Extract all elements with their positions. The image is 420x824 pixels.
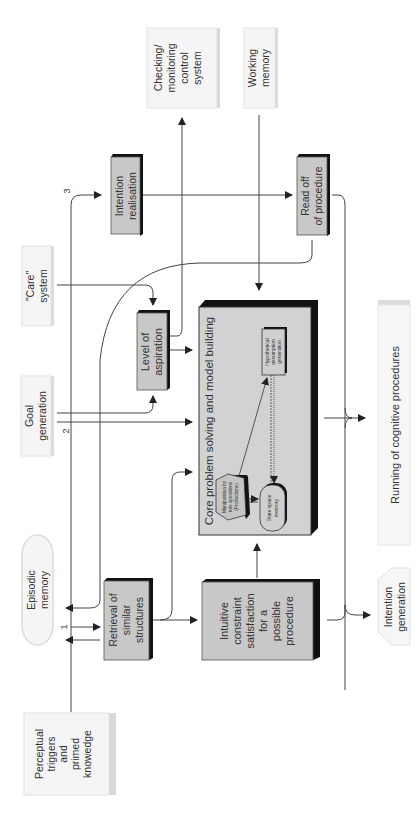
- svg-text:Goal: Goal: [23, 405, 35, 427]
- svg-text:"Care": "Care": [24, 271, 36, 301]
- path-number-2: 2: [61, 428, 71, 433]
- svg-text:2: 2: [61, 428, 71, 433]
- label-aspiration: Level of aspiration: [139, 328, 164, 376]
- svg-text:State space: State space: [266, 495, 272, 522]
- svg-text:system: system: [37, 269, 49, 303]
- svg-text:Intuitive: Intuitive: [218, 602, 230, 640]
- svg-text:knowedge: knowedge: [81, 730, 93, 778]
- svg-text:possible: possible: [270, 601, 282, 641]
- svg-text:generation: generation: [276, 340, 282, 364]
- svg-text:Episodic: Episodic: [25, 570, 37, 610]
- path-number-3: 3: [62, 188, 72, 193]
- svg-text:system: system: [191, 51, 203, 85]
- svg-text:constraint: constraint: [231, 597, 243, 645]
- svg-text:(Productions): (Productions): [234, 483, 239, 511]
- svg-text:aspiration: aspiration: [152, 328, 164, 376]
- svg-text:generation: generation: [36, 391, 48, 441]
- svg-text:1: 1: [59, 624, 69, 629]
- svg-text:3: 3: [62, 188, 72, 193]
- svg-text:and: and: [57, 745, 69, 763]
- label-core-title: Core problem solving and model building: [203, 317, 215, 525]
- path-number-1: 1: [59, 624, 69, 629]
- svg-text:triggers: triggers: [45, 736, 57, 771]
- label-intention-generation: Intention generation: [382, 582, 407, 632]
- svg-text:rule operations: rule operations: [228, 481, 233, 512]
- svg-text:Read off: Read off: [299, 176, 311, 216]
- svg-text:memory: memory: [259, 48, 271, 87]
- svg-text:control: control: [178, 52, 190, 84]
- arrow-to-checking-system: [170, 118, 182, 336]
- svg-text:Intention: Intention: [382, 587, 394, 627]
- label-manipulation: Manipulation by rule operations (Product…: [222, 480, 239, 513]
- svg-text:procedure: procedure: [283, 596, 295, 646]
- svg-text:Manipulation by: Manipulation by: [222, 480, 227, 513]
- cognitive-model-diagram: Checking/ monitoring control system Work…: [0, 0, 420, 824]
- label-intention-realisation: Intention realisation: [113, 172, 138, 220]
- label-episodic-memory: Episodic memory: [25, 570, 50, 610]
- svg-text:generation: generation: [395, 582, 407, 632]
- svg-text:for a: for a: [257, 609, 269, 632]
- path-readoff-down: [332, 195, 345, 690]
- svg-text:Checking/: Checking/: [152, 45, 164, 92]
- label-hypothetical: Hypothetical assumption generation: [264, 338, 282, 366]
- svg-text:memory: memory: [38, 570, 50, 609]
- svg-text:Core problem solving and model: Core problem solving and model building: [203, 317, 215, 525]
- path-3-to-intention-realisation: [71, 195, 101, 712]
- svg-text:Retrieval of: Retrieval of: [107, 593, 119, 646]
- label-care-system: "Care" system: [24, 269, 49, 303]
- svg-text:memory: memory: [273, 498, 279, 517]
- svg-text:structures: structures: [133, 597, 145, 643]
- svg-text:satisfaction: satisfaction: [244, 593, 256, 648]
- svg-text:primed: primed: [69, 738, 81, 770]
- arrow-retrieval-to-core: [160, 472, 192, 620]
- svg-text:Working: Working: [246, 49, 258, 87]
- svg-text:of procedure: of procedure: [312, 166, 324, 225]
- svg-text:monitoring: monitoring: [165, 43, 177, 92]
- svg-text:Level of: Level of: [139, 332, 151, 371]
- node-core-problem-solving: [199, 300, 318, 535]
- svg-text:realisation: realisation: [126, 172, 138, 220]
- svg-text:Perceptual: Perceptual: [33, 729, 45, 779]
- arrow-to-intention-generation: [327, 605, 370, 620]
- svg-text:similar: similar: [120, 604, 132, 635]
- label-running: Running of cognitive procedures: [389, 346, 401, 504]
- svg-text:Running of cognitive procedure: Running of cognitive procedures: [389, 346, 401, 504]
- label-working-memory: Working memory: [246, 48, 271, 87]
- svg-text:Intention: Intention: [113, 176, 125, 216]
